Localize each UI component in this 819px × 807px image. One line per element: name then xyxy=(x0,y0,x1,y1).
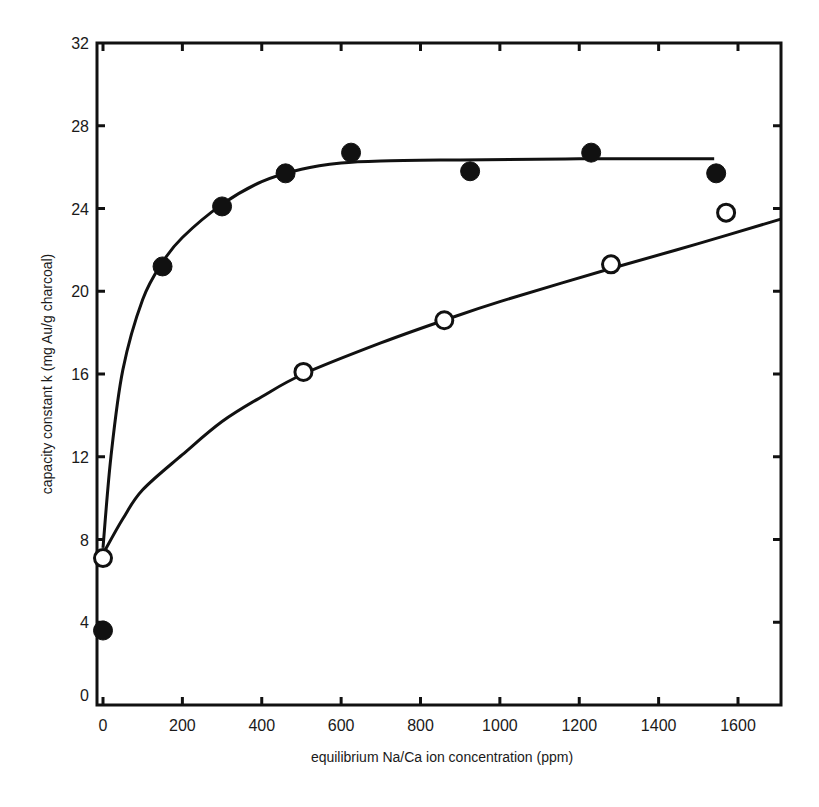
y-tick-label: 32 xyxy=(71,35,89,52)
x-tick-label: 200 xyxy=(169,717,196,734)
filled-data-point xyxy=(461,162,480,181)
y-tick-label: 20 xyxy=(71,283,89,300)
x-tick-label: 1600 xyxy=(720,717,756,734)
axis-ticks: 0200400600800100012001400160004812162024… xyxy=(71,35,781,734)
fit-curves xyxy=(103,159,782,554)
data-points xyxy=(94,143,735,640)
y-axis-title: capacity constant k (mg Au/g charcoal) xyxy=(39,254,55,494)
y-tick-label: 8 xyxy=(80,532,89,549)
y-tick-label: 16 xyxy=(71,366,89,383)
open-data-point xyxy=(295,363,312,380)
open-series-fit-curve xyxy=(103,219,782,554)
x-tick-label: 400 xyxy=(248,717,275,734)
filled-data-point xyxy=(342,143,361,162)
x-tick-label: 1000 xyxy=(482,717,518,734)
open-data-point xyxy=(603,256,620,273)
open-data-point xyxy=(95,550,112,567)
x-tick-label: 800 xyxy=(407,717,434,734)
x-axis-title: equilibrium Na/Ca ion concentration (ppm… xyxy=(311,749,573,765)
y-tick-label: 12 xyxy=(71,449,89,466)
filled-data-point xyxy=(213,197,232,216)
y-tick-label: 4 xyxy=(80,614,89,631)
filled-data-point xyxy=(94,621,113,640)
x-tick-label: 600 xyxy=(328,717,355,734)
filled-series-fit-curve xyxy=(103,159,714,548)
x-tick-label: 1200 xyxy=(561,717,597,734)
y-tick-label: 28 xyxy=(71,118,89,135)
chart-svg: 0200400600800100012001400160004812162024… xyxy=(0,0,819,807)
x-tick-label: 0 xyxy=(99,717,108,734)
open-data-point xyxy=(718,204,735,221)
filled-data-point xyxy=(582,143,601,162)
filled-data-point xyxy=(276,164,295,183)
filled-data-point xyxy=(153,257,172,276)
y-tick-label: 0 xyxy=(80,687,89,704)
x-tick-label: 1400 xyxy=(641,717,677,734)
filled-data-point xyxy=(707,164,726,183)
open-data-point xyxy=(436,312,453,329)
plot-frame xyxy=(97,43,781,705)
plot-border xyxy=(97,43,781,705)
y-tick-label: 24 xyxy=(71,201,89,218)
